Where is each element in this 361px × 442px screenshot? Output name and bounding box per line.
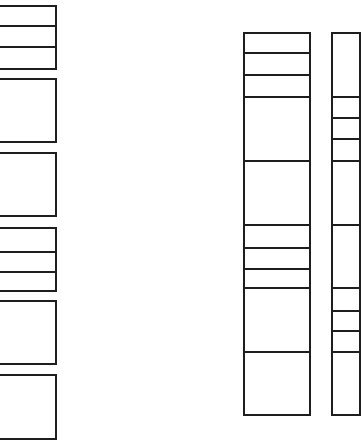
middle-column [243, 0, 311, 442]
shelf-compartment [243, 74, 311, 98]
left-column [0, 0, 57, 442]
shelf-compartment [0, 271, 57, 292]
shelf-compartment [243, 247, 311, 270]
shelf-compartment [331, 32, 361, 98]
shelf-compartment [243, 96, 311, 162]
shelf-compartment [331, 330, 361, 353]
shelf-compartment [0, 251, 57, 273]
shelf-compartment [331, 117, 361, 140]
shelf-compartment [331, 160, 361, 226]
right-column [331, 0, 361, 442]
shelf-compartment [0, 300, 57, 365]
shelf-compartment [243, 287, 311, 353]
shelf-compartment [0, 46, 57, 70]
shelf-compartment [331, 96, 361, 119]
shelf-compartment [0, 25, 57, 48]
shelf-compartment [0, 78, 57, 143]
shelf-compartment [331, 138, 361, 162]
shelf-compartment [243, 268, 311, 289]
shelf-compartment [331, 310, 361, 332]
shelf-compartment [243, 52, 311, 76]
shelf-compartment [0, 374, 57, 440]
shelf-compartment [331, 351, 361, 416]
shelf-compartment [243, 351, 311, 416]
shelf-compartment [243, 160, 311, 226]
shelf-compartment [243, 32, 311, 54]
shelf-compartment [243, 224, 311, 249]
shelf-compartment [0, 152, 57, 217]
shelf-compartment [0, 5, 57, 27]
shelf-compartment [331, 287, 361, 312]
shelf-compartment [331, 224, 361, 289]
shelf-compartment [0, 227, 57, 253]
